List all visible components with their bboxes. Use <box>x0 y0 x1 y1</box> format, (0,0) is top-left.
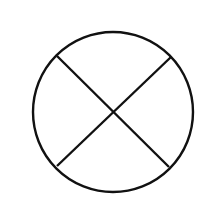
circle-cross-diagram <box>0 0 206 210</box>
